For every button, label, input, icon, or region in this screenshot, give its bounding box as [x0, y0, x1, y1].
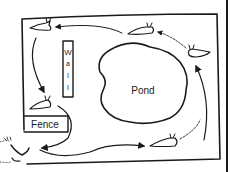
slug-icon-right: [188, 45, 210, 57]
wall-letter-w: W: [64, 48, 72, 57]
arrow-bottom-return: [40, 145, 144, 156]
pond-label: Pond: [131, 85, 154, 96]
slug-icon-top: [128, 23, 154, 34]
enclosure-boundary: [22, 14, 220, 164]
wall-letter-a: a: [66, 60, 70, 67]
fence: Fence: [24, 116, 68, 132]
arrow-topleft-down: [32, 38, 44, 92]
arrow-top-to-topleft: [56, 25, 122, 33]
pond: Pond: [99, 43, 187, 123]
foot-icon: [0, 137, 29, 163]
slug-icon-left: [30, 96, 51, 109]
slug-icon-top-left: [30, 18, 51, 30]
wall-letter-l1: l: [67, 72, 69, 79]
page-edge-rule: [226, 0, 228, 172]
arrow-bottomright-up: [180, 120, 200, 139]
slug-icon-bottom-right: [150, 134, 177, 147]
wall: W a l l: [63, 41, 73, 97]
arrow-right-to-top: [158, 32, 186, 48]
arrow-bottom-to-right: [196, 66, 207, 140]
wall-letter-l2: l: [67, 84, 69, 91]
slug-garden-diagram: W a l l Pond Fence: [0, 0, 230, 172]
fence-label: Fence: [31, 119, 59, 130]
